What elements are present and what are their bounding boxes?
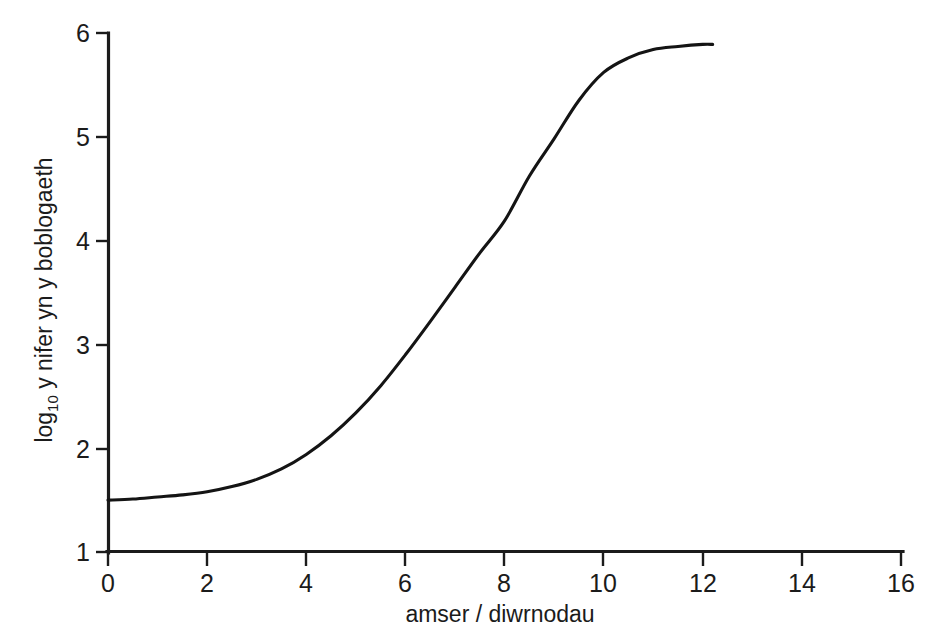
- growth-curve-chart: 6 5 4 3 2 1 0 2 4 6 8 10 12: [0, 0, 929, 641]
- y-tick-label: 3: [76, 331, 90, 359]
- x-tick-label: 10: [589, 569, 617, 597]
- x-tick-label: 16: [887, 569, 915, 597]
- x-tick-label: 14: [788, 569, 816, 597]
- y-tick-label: 5: [76, 123, 90, 151]
- x-tick-label: 4: [299, 569, 313, 597]
- y-tick-label: 6: [76, 19, 90, 47]
- chart-background: [0, 0, 929, 641]
- x-tick-label: 6: [398, 569, 412, 597]
- y-axis-title-subscript: 10: [44, 395, 61, 412]
- chart-page: 6 5 4 3 2 1 0 2 4 6 8 10 12: [0, 0, 929, 641]
- x-tick-label: 8: [497, 569, 511, 597]
- x-tick-label: 12: [689, 569, 717, 597]
- y-axis-title-rest: y nifer yn y boblogaeth: [31, 157, 57, 395]
- y-tick-label: 1: [76, 538, 90, 566]
- y-tick-label: 4: [76, 227, 90, 255]
- x-tick-label: 0: [101, 569, 115, 597]
- x-tick-label: 2: [200, 569, 214, 597]
- x-axis-title: amser / diwrnodau: [405, 601, 594, 627]
- y-tick-label: 2: [76, 435, 90, 463]
- y-axis-title-prefix: log: [31, 412, 57, 443]
